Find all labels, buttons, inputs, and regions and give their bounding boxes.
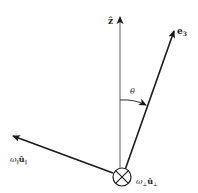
theta-label: θ	[130, 87, 135, 96]
into-page-icon	[113, 168, 131, 186]
omega-parallel-vector	[13, 136, 113, 173]
vector-diagram: ẑ e3 θ ω∥û∥ ω⊥û⊥	[0, 0, 198, 193]
e3-label: e3	[177, 26, 187, 37]
omega-perp-label: ω⊥û⊥	[136, 176, 158, 187]
omega-parallel-label: ω∥û∥	[10, 154, 27, 165]
z-axis-label: ẑ	[108, 16, 113, 26]
theta-arc	[120, 100, 146, 105]
